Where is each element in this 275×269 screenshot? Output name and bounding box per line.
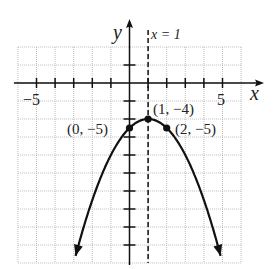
point-label-left: (0, −5)	[67, 121, 108, 138]
point-label-right: (2, −5)	[175, 121, 216, 138]
x-axis-label: x	[249, 82, 259, 104]
data-point	[145, 115, 152, 122]
data-point	[126, 124, 133, 131]
data-point	[163, 124, 170, 131]
parabola-chart: x y x = 1 −5 5 (1, −4) (0, −5) (2, −5)	[0, 0, 275, 269]
x-tick-label-neg5: −5	[23, 91, 40, 108]
axes	[14, 19, 264, 265]
curve-arrow-left-icon	[74, 244, 83, 256]
y-axis-label: y	[111, 21, 122, 44]
symmetry-label: x = 1	[150, 27, 181, 42]
point-label-vertex: (1, −4)	[153, 101, 194, 118]
curve-arrow-right-icon	[213, 244, 222, 256]
x-tick-label-5: 5	[217, 91, 225, 108]
